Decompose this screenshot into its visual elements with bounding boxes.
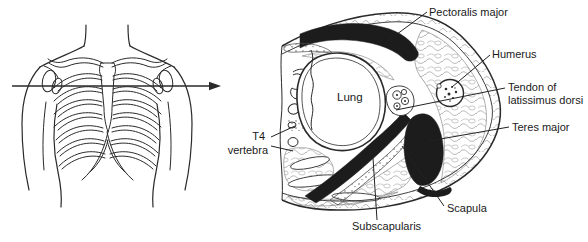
leader-t4-lower <box>271 146 293 151</box>
label-t4-line2: vertebra <box>228 144 269 156</box>
arrowhead <box>209 82 221 90</box>
ribcage-diagram <box>22 25 192 207</box>
cross-section-diagram: Pectoralis major Humerus Tendon of latis… <box>228 6 584 232</box>
cut-edge <box>280 46 282 200</box>
label-pectoralis-major: Pectoralis major <box>429 6 508 18</box>
teres-major-muscle <box>404 114 443 186</box>
ribs <box>54 74 161 169</box>
label-tendon-line1: Tendon of <box>508 81 557 93</box>
trapezius-outline <box>40 46 174 67</box>
leader-t4-upper <box>271 126 295 137</box>
anatomy-figure: Pectoralis major Humerus Tendon of latis… <box>0 0 588 242</box>
label-subscapularis: Subscapularis <box>352 220 422 232</box>
anatomy-figure-svg: Pectoralis major Humerus Tendon of latis… <box>0 0 588 242</box>
sternum <box>100 63 116 132</box>
label-tendon-line2: latissimus dorsi <box>508 94 583 106</box>
label-scapula: Scapula <box>447 202 488 214</box>
neck-outline <box>84 25 130 46</box>
first-rib-stipple <box>284 43 332 53</box>
humerus-bone <box>437 80 464 107</box>
arm-inner-right <box>168 102 171 170</box>
shoulder-joint-right <box>151 66 174 95</box>
arm-inner-left <box>43 102 46 170</box>
axillary-vessels <box>386 86 414 116</box>
label-humerus: Humerus <box>492 48 537 60</box>
label-t4-line1: T4 <box>252 130 265 142</box>
label-teres-major: Teres major <box>512 121 570 133</box>
label-lung: Lung <box>337 91 363 103</box>
shoulder-joint-left <box>40 66 63 95</box>
